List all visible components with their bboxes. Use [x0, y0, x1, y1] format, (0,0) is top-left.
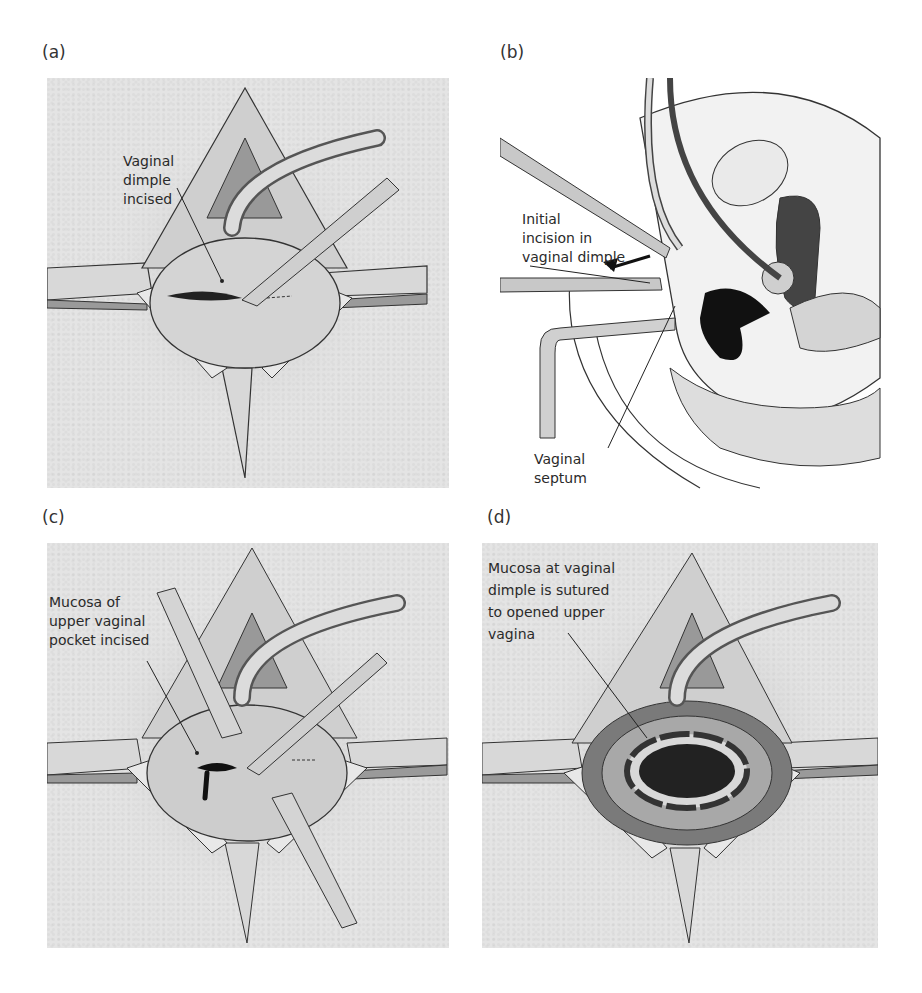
caption-line: dimple [123, 171, 174, 190]
panel-d-illustration: Mucosa at vaginal dimple is sutured to o… [482, 543, 878, 948]
panel-label-a: (a) [42, 42, 66, 62]
caption-line: to opened upper [488, 601, 615, 623]
panel-b-caption-top: Initial incision in vaginal dimple [522, 210, 625, 267]
sagittal-section-illustration-icon [500, 78, 900, 498]
panel-label-d: (d) [487, 507, 511, 527]
surgical-view-illustration-icon [47, 78, 449, 488]
panel-b-caption-bottom: Vaginal septum [534, 450, 587, 488]
panel-a-caption: Vaginal dimple incised [123, 152, 174, 209]
caption-line: Mucosa at vaginal [488, 557, 615, 579]
panel-c-caption: Mucosa of upper vaginal pocket incised [49, 593, 149, 650]
caption-line: vaginal dimple [522, 248, 625, 267]
caption-line: vagina [488, 623, 615, 645]
caption-line: septum [534, 469, 587, 488]
caption-line: incision in [522, 229, 625, 248]
caption-line: dimple is sutured [488, 579, 615, 601]
panel-b-illustration: Initial incision in vaginal dimple Vagin… [500, 78, 900, 498]
panel-a-illustration: Vaginal dimple incised [47, 78, 449, 488]
caption-line: Vaginal [534, 450, 587, 469]
panel-label-b: (b) [500, 42, 524, 62]
caption-line: Mucosa of [49, 593, 149, 612]
caption-line: Vaginal [123, 152, 174, 171]
caption-line: Initial [522, 210, 625, 229]
panel-d-caption: Mucosa at vaginal dimple is sutured to o… [488, 557, 615, 645]
panel-label-c: (c) [42, 507, 65, 527]
caption-line: incised [123, 190, 174, 209]
caption-line: upper vaginal [49, 612, 149, 631]
panel-c-illustration: Mucosa of upper vaginal pocket incised [47, 543, 449, 948]
caption-line: pocket incised [49, 631, 149, 650]
